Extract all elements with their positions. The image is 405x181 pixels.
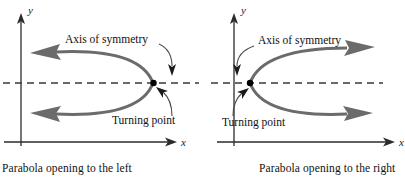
axis-of-symmetry-label-right: Axis of symmetry — [258, 34, 341, 47]
x-axis-label-right: x — [398, 136, 404, 148]
axis-of-symmetry-label-left: Axis of symmetry — [65, 33, 148, 46]
x-axis-label-left: x — [180, 136, 186, 148]
caption-right: Parabola opening to the right — [203, 160, 405, 176]
turning-point-label-right: Turning point — [222, 116, 286, 129]
panel-parabola-right: y x Axis of symmetry — [203, 0, 405, 181]
axis-of-symmetry-leader-left — [159, 44, 176, 76]
diagram-left: y x Axis of symmetry — [0, 0, 202, 160]
turning-point-dot-right — [247, 80, 253, 86]
y-axis-label-right: y — [240, 4, 246, 16]
diagram-right: y x Axis of symmetry — [203, 0, 405, 160]
turning-point-dot-left — [150, 80, 156, 86]
caption-left: Parabola opening to the left — [0, 160, 204, 176]
parabola-figure: y x Axis of symmetry — [0, 0, 405, 181]
x-axis-left — [4, 138, 177, 147]
turning-point-label-left: Turning point — [112, 114, 176, 127]
y-axis-left — [17, 13, 25, 146]
axis-of-symmetry-leader-right — [233, 46, 254, 76]
parabola-curve-right — [250, 40, 375, 121]
y-axis-label-left: y — [27, 4, 33, 16]
turning-point-leader-left — [156, 87, 172, 116]
panel-parabola-left: y x Axis of symmetry — [0, 0, 202, 181]
turning-point-leader-right — [233, 88, 249, 116]
x-axis-right — [217, 138, 395, 147]
